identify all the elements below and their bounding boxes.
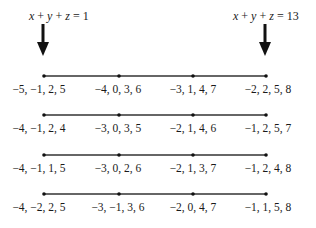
point-label: −2, 0, 4, 7 — [170, 202, 217, 214]
row-line-4 — [42, 192, 268, 196]
point-label: −2, 1, 4, 6 — [170, 123, 217, 135]
point-label: −3, 0, 3, 5 — [95, 123, 142, 135]
point-label: −4, −1, 2, 4 — [12, 123, 65, 135]
point-label: −4, 0, 3, 6 — [95, 84, 142, 96]
point-label: −4, −1, 1, 5 — [12, 163, 65, 175]
point-label: −5, −1, 2, 5 — [12, 84, 65, 96]
point-label: −1, 2, 5, 7 — [245, 123, 292, 135]
point-label: −3, −1, 3, 6 — [91, 202, 144, 214]
row-line-1 — [42, 74, 268, 78]
point-label: −2, 1, 3, 7 — [170, 163, 217, 175]
point-label: −3, 1, 4, 7 — [170, 84, 217, 96]
left-arrow-icon — [37, 24, 49, 56]
point-label: −1, 2, 4, 8 — [245, 163, 292, 175]
point-label: −4, −2, 2, 5 — [12, 202, 65, 214]
point-label: −2, 2, 5, 8 — [245, 84, 292, 96]
right-arrow-icon — [259, 24, 271, 56]
point-label: −1, 1, 5, 8 — [245, 202, 292, 214]
row-line-3 — [42, 153, 268, 157]
row-line-2 — [42, 113, 268, 117]
point-label: −3, 0, 2, 6 — [95, 163, 142, 175]
diagram-canvas — [0, 0, 316, 228]
